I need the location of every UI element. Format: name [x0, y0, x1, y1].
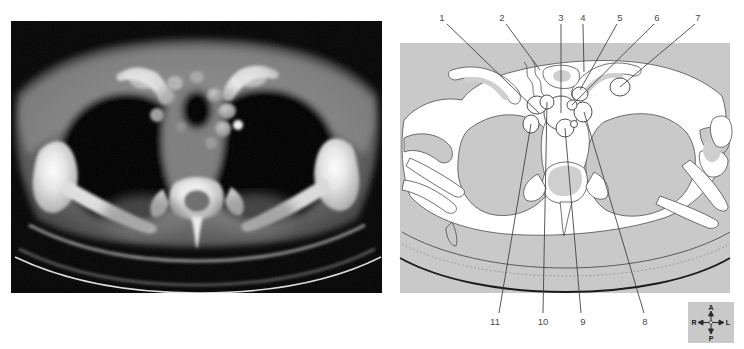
label-1: 1	[439, 12, 444, 23]
compass-label-anterior: A	[708, 304, 713, 311]
label-6: 6	[654, 12, 659, 23]
compass-center-dot	[709, 321, 712, 324]
ct-image-panel	[11, 21, 382, 293]
compass-label-left: L	[726, 319, 731, 326]
label-10: 10	[538, 316, 549, 327]
label-5: 5	[617, 12, 622, 23]
compass-label-posterior: P	[709, 335, 714, 342]
medical-figure: 1 2 3 4 5 6 7 11 10 9 8	[0, 0, 744, 349]
label-4: 4	[580, 12, 585, 23]
label-3: 3	[558, 12, 563, 23]
label-7: 7	[695, 12, 700, 23]
diagram-panel: 1 2 3 4 5 6 7 11 10 9 8	[398, 0, 744, 349]
anatomy-line-drawing: 1 2 3 4 5 6 7 11 10 9 8	[398, 0, 744, 349]
label-9: 9	[580, 316, 585, 327]
label-2: 2	[499, 12, 504, 23]
compass-label-right: R	[691, 319, 696, 326]
label-11: 11	[490, 316, 500, 327]
structure-5	[572, 87, 588, 101]
compass-graphic: A P R L	[686, 300, 736, 345]
orientation-compass: A P R L	[686, 300, 736, 345]
ct-image	[11, 21, 382, 293]
label-8: 8	[642, 316, 647, 327]
